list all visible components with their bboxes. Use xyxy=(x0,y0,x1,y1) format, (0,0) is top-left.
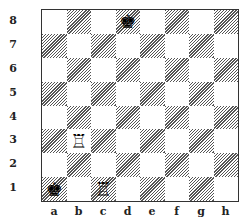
rank-label-7: 7 xyxy=(6,33,20,57)
square-b6[interactable] xyxy=(67,58,92,82)
square-c7[interactable] xyxy=(91,34,116,58)
square-f5[interactable] xyxy=(165,82,190,106)
rank-label-6: 6 xyxy=(6,57,20,81)
square-c5[interactable] xyxy=(91,82,116,106)
square-e6[interactable] xyxy=(140,58,165,82)
square-f2[interactable] xyxy=(165,153,190,177)
square-d7[interactable] xyxy=(116,34,141,58)
square-e1[interactable] xyxy=(140,177,165,201)
square-e7[interactable] xyxy=(140,34,165,58)
rank-label-5: 5 xyxy=(6,81,20,105)
square-f1[interactable] xyxy=(165,177,190,201)
chessboard: ♚♖♚♖ xyxy=(41,9,239,202)
square-e3[interactable] xyxy=(140,129,165,153)
square-d6[interactable] xyxy=(116,58,141,82)
square-g5[interactable] xyxy=(189,82,214,106)
square-d4[interactable] xyxy=(116,106,141,130)
square-c6[interactable] xyxy=(91,58,116,82)
square-h5[interactable] xyxy=(214,82,239,106)
file-label-g: g xyxy=(189,205,213,218)
square-h2[interactable] xyxy=(214,153,239,177)
square-b4[interactable] xyxy=(67,106,92,130)
rank-label-4: 4 xyxy=(6,105,20,129)
square-f8[interactable] xyxy=(165,10,190,34)
file-label-a: a xyxy=(42,205,66,218)
white-rook-icon[interactable]: ♖ xyxy=(67,129,92,153)
square-h3[interactable] xyxy=(214,129,239,153)
square-b1[interactable] xyxy=(67,177,92,201)
square-e2[interactable] xyxy=(140,153,165,177)
square-g8[interactable] xyxy=(189,10,214,34)
square-h6[interactable] xyxy=(214,58,239,82)
file-label-d: d xyxy=(116,205,140,218)
square-g7[interactable] xyxy=(189,34,214,58)
square-g2[interactable] xyxy=(189,153,214,177)
square-e8[interactable] xyxy=(140,10,165,34)
rank-label-2: 2 xyxy=(6,152,20,176)
file-label-c: c xyxy=(91,205,115,218)
square-a2[interactable] xyxy=(42,153,67,177)
square-a5[interactable] xyxy=(42,82,67,106)
square-b8[interactable] xyxy=(67,10,92,34)
black-king-icon[interactable]: ♚ xyxy=(116,10,141,34)
square-c8[interactable] xyxy=(91,10,116,34)
white-rook-icon[interactable]: ♖ xyxy=(91,177,116,201)
square-a3[interactable] xyxy=(42,129,67,153)
square-b5[interactable] xyxy=(67,82,92,106)
square-f7[interactable] xyxy=(165,34,190,58)
file-label-e: e xyxy=(140,205,164,218)
square-a8[interactable] xyxy=(42,10,67,34)
square-a6[interactable] xyxy=(42,58,67,82)
square-a7[interactable] xyxy=(42,34,67,58)
square-g6[interactable] xyxy=(189,58,214,82)
square-c2[interactable] xyxy=(91,153,116,177)
square-a4[interactable] xyxy=(42,106,67,130)
black-king-icon[interactable]: ♚ xyxy=(42,177,67,201)
rank-label-8: 8 xyxy=(6,9,20,33)
square-h4[interactable] xyxy=(214,106,239,130)
square-g4[interactable] xyxy=(189,106,214,130)
square-c4[interactable] xyxy=(91,106,116,130)
square-g3[interactable] xyxy=(189,129,214,153)
square-d3[interactable] xyxy=(116,129,141,153)
square-d2[interactable] xyxy=(116,153,141,177)
square-d1[interactable] xyxy=(116,177,141,201)
square-h1[interactable] xyxy=(214,177,239,201)
square-d5[interactable] xyxy=(116,82,141,106)
square-f6[interactable] xyxy=(165,58,190,82)
rank-label-3: 3 xyxy=(6,128,20,152)
square-h8[interactable] xyxy=(214,10,239,34)
square-f3[interactable] xyxy=(165,129,190,153)
square-e4[interactable] xyxy=(140,106,165,130)
file-label-f: f xyxy=(165,205,189,218)
square-b7[interactable] xyxy=(67,34,92,58)
square-f4[interactable] xyxy=(165,106,190,130)
square-b2[interactable] xyxy=(67,153,92,177)
square-g1[interactable] xyxy=(189,177,214,201)
file-label-b: b xyxy=(67,205,91,218)
rank-label-1: 1 xyxy=(6,176,20,200)
square-c3[interactable] xyxy=(91,129,116,153)
square-h7[interactable] xyxy=(214,34,239,58)
square-e5[interactable] xyxy=(140,82,165,106)
file-label-h: h xyxy=(214,205,238,218)
